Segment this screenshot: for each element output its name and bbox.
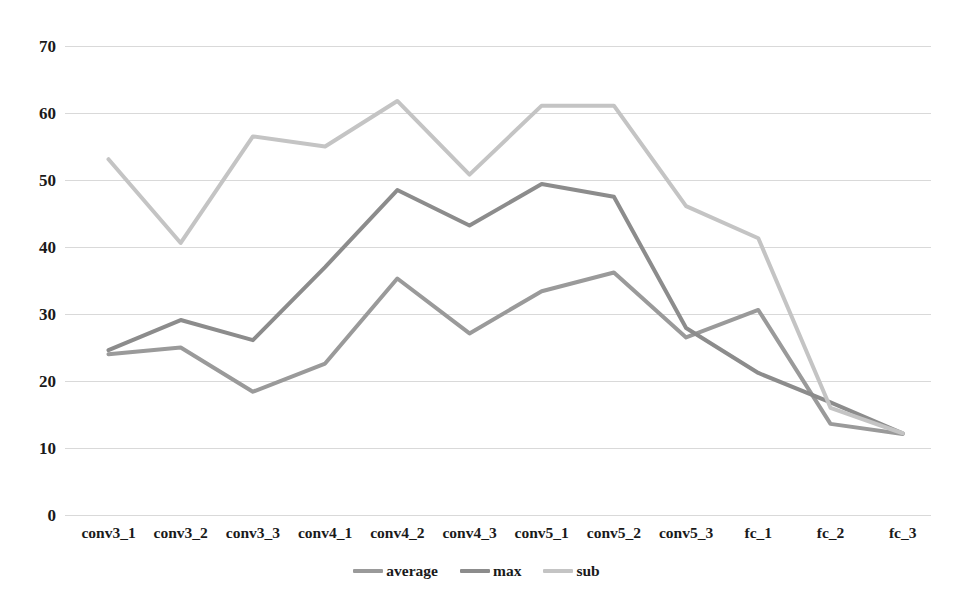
legend-label: max: [493, 563, 521, 579]
y-axis-tick-labels: 010203040506070: [4, 46, 56, 515]
chart-figure: 010203040506070 conv3_1conv3_2conv3_3con…: [0, 0, 953, 601]
x-tick-label: conv5_3: [659, 523, 713, 543]
chart-legend: averagemaxsub: [0, 556, 953, 586]
x-tick-label: fc_1: [745, 523, 773, 543]
x-tick-label: conv5_1: [515, 523, 569, 543]
x-tick-label: conv4_1: [298, 523, 352, 543]
legend-item-max[interactable]: max: [460, 563, 521, 579]
series-lines: [65, 46, 931, 515]
y-tick-label: 70: [10, 38, 56, 55]
x-tick-label: conv3_3: [226, 523, 280, 543]
x-tick-label: conv3_1: [81, 523, 135, 543]
legend-label: sub: [576, 563, 599, 579]
x-tick-label: conv5_2: [587, 523, 641, 543]
y-tick-label: 30: [10, 306, 56, 323]
x-tick-label: conv4_2: [370, 523, 424, 543]
x-tick-label: fc_3: [889, 523, 917, 543]
y-tick-label: 50: [10, 172, 56, 189]
series-line-max: [109, 184, 903, 433]
legend-swatch-average: [353, 569, 383, 573]
y-tick-label: 10: [10, 440, 56, 457]
y-tick-label: 40: [10, 239, 56, 256]
x-tick-label: fc_2: [817, 523, 845, 543]
y-tick-label: 20: [10, 373, 56, 390]
gridline-0: [65, 515, 931, 516]
legend-swatch-max: [460, 569, 490, 573]
x-tick-label: conv4_3: [442, 523, 496, 543]
plot-area: [65, 46, 931, 515]
legend-item-average[interactable]: average: [353, 563, 438, 579]
legend-item-sub[interactable]: sub: [543, 563, 599, 579]
y-tick-label: 60: [10, 105, 56, 122]
legend-swatch-sub: [543, 569, 573, 573]
x-tick-label: conv3_2: [154, 523, 208, 543]
x-axis-tick-labels: conv3_1conv3_2conv3_3conv4_1conv4_2conv4…: [65, 523, 931, 549]
y-tick-label: 0: [10, 507, 56, 524]
legend-label: average: [386, 563, 438, 579]
